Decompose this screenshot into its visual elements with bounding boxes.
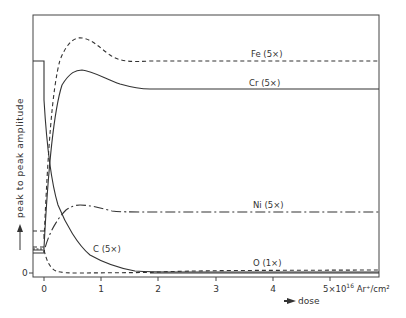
y-axis-label: peak to peak amplitude [15, 98, 25, 250]
x-tick-4: 4 [270, 284, 276, 294]
label-fe: Fe (5×) [251, 49, 283, 59]
curves [33, 38, 379, 273]
x-tick-0: 0 [41, 284, 47, 294]
chart-container: 0 1 2 3 4 5×1016 Ar⁺/cm² 0 dose peak to … [0, 0, 406, 318]
series-ni [33, 205, 379, 252]
label-ni: Ni (5×) [253, 200, 284, 210]
label-c: C (5×) [93, 244, 121, 254]
y-tick-0: 0 [22, 268, 28, 278]
x-tick-2: 2 [155, 284, 161, 294]
x-label-text: dose [298, 296, 320, 306]
x-tick-5-unit: 5×1016 Ar⁺/cm² [323, 282, 390, 294]
chart-svg: 0 1 2 3 4 5×1016 Ar⁺/cm² 0 dose peak to … [0, 0, 406, 318]
y-label-text: peak to peak amplitude [15, 98, 25, 218]
x-axis-label: dose [284, 296, 320, 306]
series-labels: Fe (5×) Cr (5×) Ni (5×) C (5×) O (1×) [93, 49, 284, 268]
x-tick-1: 1 [98, 284, 104, 294]
series-fe [33, 38, 379, 240]
series-c [33, 61, 379, 272]
x-tick-3: 3 [213, 284, 219, 294]
series-cr [33, 70, 379, 253]
plot-frame [33, 15, 379, 277]
label-o: O (1×) [253, 258, 282, 268]
label-cr: Cr (5×) [249, 78, 280, 88]
arrow-up-icon [17, 224, 23, 232]
